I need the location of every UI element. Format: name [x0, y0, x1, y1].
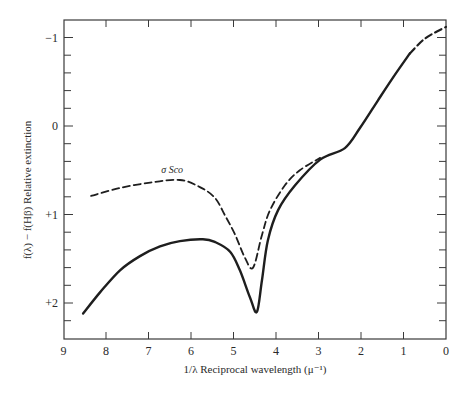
y-tick-label: +2 — [45, 296, 58, 310]
x-axis-label: 1/λ Reciprocal wavelength (μ⁻¹) — [184, 363, 327, 376]
x-tick-label: 0 — [443, 344, 449, 358]
x-tick-label: 5 — [231, 344, 237, 358]
x-tick-label: 7 — [146, 344, 152, 358]
x-tick-label: 8 — [103, 344, 109, 358]
y-tick-label: +1 — [45, 208, 58, 222]
y-tick-label: 0 — [52, 119, 58, 133]
x-tick-label: 2 — [358, 344, 364, 358]
y-axis-label: f(λ) − f(Hβ) Relative extinction — [21, 120, 34, 259]
series-lines — [83, 27, 446, 314]
y-tick-label: −1 — [45, 31, 58, 45]
extrapolated-dashed-curve — [410, 27, 446, 54]
x-tick-label: 6 — [188, 344, 194, 358]
series-label-sigma-sco: σ Sco — [161, 164, 183, 175]
x-tick-label: 4 — [273, 344, 279, 358]
average-extinction-solid-curve — [83, 53, 410, 313]
plot-frame — [64, 20, 446, 339]
sigma-sco-dashed-curve — [91, 158, 320, 269]
y-axis-ticks: −10+1+2 — [45, 31, 446, 321]
x-tick-label: 1 — [401, 344, 407, 358]
x-tick-label: 9 — [61, 344, 67, 358]
x-tick-label: 3 — [316, 344, 322, 358]
extinction-chart: 9876543210 −10+1+2 σ Sco 1/λ Reciprocal … — [0, 0, 469, 394]
